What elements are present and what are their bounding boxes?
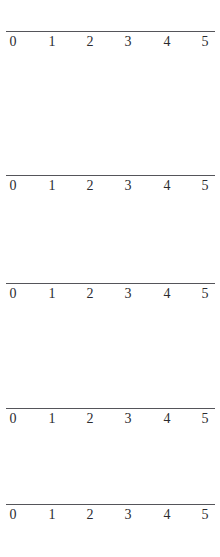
tick-label-3: 3 bbox=[118, 284, 138, 304]
tick-label-5: 5 bbox=[195, 176, 215, 196]
tick-label-2: 2 bbox=[80, 32, 100, 52]
tick-label-2: 2 bbox=[80, 176, 100, 196]
tick-label-row: 012345 bbox=[6, 32, 215, 56]
tick-label-1: 1 bbox=[42, 32, 62, 52]
tick-label-1: 1 bbox=[42, 176, 62, 196]
tick-label-0: 0 bbox=[3, 505, 23, 525]
tick-label-3: 3 bbox=[118, 409, 138, 429]
tick-label-row: 012345 bbox=[6, 505, 215, 529]
tick-label-3: 3 bbox=[118, 32, 138, 52]
tick-label-0: 0 bbox=[3, 32, 23, 52]
tick-label-row: 012345 bbox=[6, 176, 215, 200]
tick-label-0: 0 bbox=[3, 284, 23, 304]
tick-label-4: 4 bbox=[157, 176, 177, 196]
tick-label-0: 0 bbox=[3, 176, 23, 196]
tick-label-2: 2 bbox=[80, 284, 100, 304]
tick-label-5: 5 bbox=[195, 284, 215, 304]
number-line-worksheet: 012345012345012345012345012345 bbox=[0, 0, 220, 557]
tick-label-5: 5 bbox=[195, 505, 215, 525]
number-line-2: 012345 bbox=[6, 175, 215, 205]
tick-label-1: 1 bbox=[42, 409, 62, 429]
tick-label-1: 1 bbox=[42, 284, 62, 304]
tick-label-4: 4 bbox=[157, 32, 177, 52]
tick-label-1: 1 bbox=[42, 505, 62, 525]
tick-label-2: 2 bbox=[80, 409, 100, 429]
tick-label-row: 012345 bbox=[6, 284, 215, 308]
tick-label-row: 012345 bbox=[6, 409, 215, 433]
tick-label-4: 4 bbox=[157, 284, 177, 304]
number-line-3: 012345 bbox=[6, 283, 215, 313]
tick-label-5: 5 bbox=[195, 409, 215, 429]
number-line-4: 012345 bbox=[6, 408, 215, 438]
tick-label-4: 4 bbox=[157, 409, 177, 429]
tick-label-3: 3 bbox=[118, 176, 138, 196]
tick-label-0: 0 bbox=[3, 409, 23, 429]
tick-label-5: 5 bbox=[195, 32, 215, 52]
number-line-1: 012345 bbox=[6, 31, 215, 61]
number-line-5: 012345 bbox=[6, 504, 215, 534]
tick-label-2: 2 bbox=[80, 505, 100, 525]
tick-label-3: 3 bbox=[118, 505, 138, 525]
tick-label-4: 4 bbox=[157, 505, 177, 525]
